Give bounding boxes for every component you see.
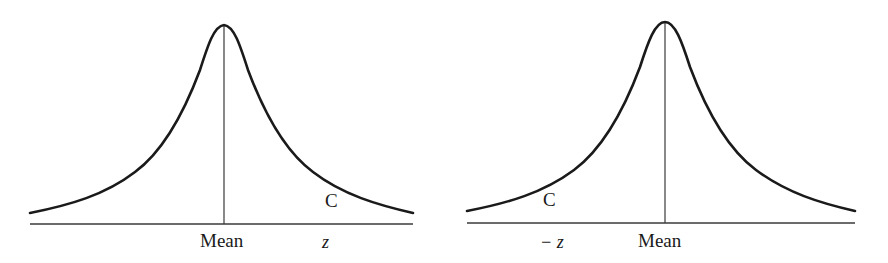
- right-distribution-plot: [0, 0, 888, 263]
- right-neg-z-label: − z: [540, 233, 564, 251]
- right-bell-curve: [467, 22, 855, 211]
- right-region-c-label: C: [543, 190, 556, 209]
- figure: Mean z C − z Mean C: [0, 0, 888, 263]
- right-mean-label: Mean: [638, 231, 681, 250]
